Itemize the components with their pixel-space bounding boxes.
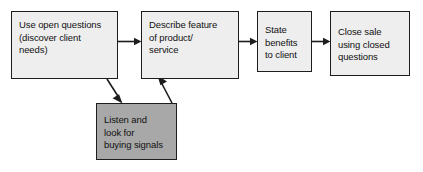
edge-buying-signals-to-describe-feature [158,76,173,104]
node-describe-feature[interactable]: Describe feature of product/ service [141,11,239,79]
node-state-benefits[interactable]: State benefits to client [257,11,312,72]
edge-state-benefits-to-close-sale [312,38,331,45]
node-open-questions[interactable]: Use open questions (discover client need… [11,11,118,79]
node-close-sale[interactable]: Close sale using closed questions [330,11,410,76]
flowchart-canvas: Use open questions (discover client need… [0,0,423,172]
edge-open-questions-to-describe-feature [118,38,142,45]
node-buying-signals[interactable]: Listen and look for buying signals [96,103,177,160]
edge-describe-feature-to-state-benefits [239,38,258,45]
edge-open-questions-to-buying-signals [107,79,123,104]
